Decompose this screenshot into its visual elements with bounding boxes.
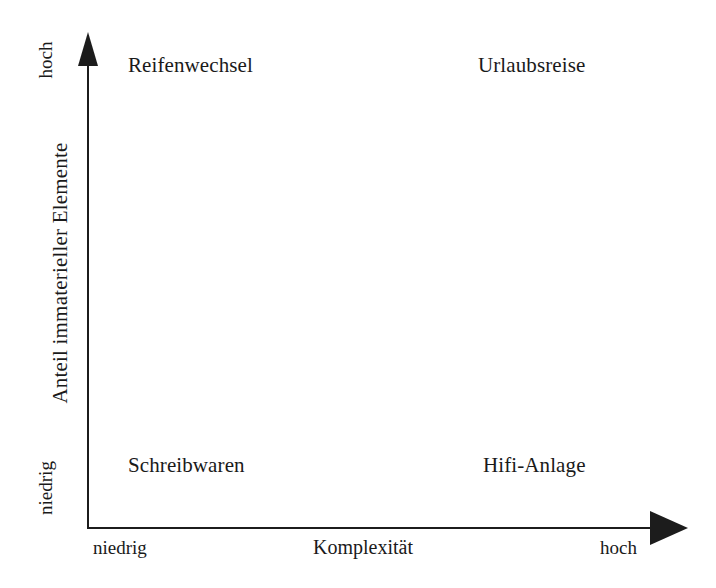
x-axis-tick-high: hoch <box>600 538 637 557</box>
y-axis-tick-high: hoch <box>36 12 56 108</box>
data-label-bottom-right: Hifi-Anlage <box>483 455 586 476</box>
horizontal-axis-line <box>87 527 657 529</box>
x-axis-tick-low: niedrig <box>93 538 147 557</box>
data-label-top-left: Reifenwechsel <box>128 55 253 76</box>
positioning-matrix-figure: Anteil immaterieller Elemente hoch niedr… <box>0 0 716 588</box>
arrow-up-icon <box>78 32 98 66</box>
arrow-right-icon <box>650 511 688 545</box>
data-label-bottom-left: Schreibwaren <box>128 455 245 476</box>
vertical-axis-line <box>87 62 89 529</box>
data-label-top-right: Urlaubsreise <box>478 55 585 76</box>
y-axis-tick-low: niedrig <box>36 428 56 548</box>
y-axis-title: Anteil immaterieller Elemente <box>50 123 72 423</box>
x-axis-title: Komplexität <box>313 537 413 557</box>
